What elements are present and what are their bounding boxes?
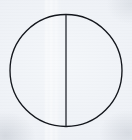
line-drawing [0, 0, 132, 140]
figure-canvas: Circle with vertical diameter line [0, 0, 132, 140]
